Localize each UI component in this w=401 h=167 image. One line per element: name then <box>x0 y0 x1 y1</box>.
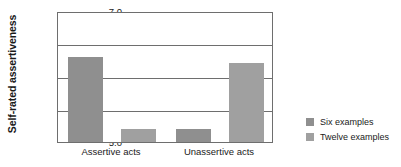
legend-swatch-icon <box>306 118 314 126</box>
legend-label: Six examples <box>320 117 374 127</box>
x-axis-category-label: Unassertive acts <box>159 146 279 157</box>
bar <box>229 63 264 142</box>
legend-item: Twelve examples <box>306 129 389 144</box>
bar <box>68 57 103 142</box>
plot-area <box>57 12 273 143</box>
bar-chart-figure: Self-rated assertiveness 5.05.56.06.57.0… <box>0 0 401 167</box>
bar <box>176 129 211 142</box>
legend-swatch-icon <box>306 133 314 141</box>
chart-legend: Six examplesTwelve examples <box>306 114 389 144</box>
y-axis-title: Self-rated assertiveness <box>6 4 18 144</box>
legend-item: Six examples <box>306 114 389 129</box>
bar <box>121 129 156 142</box>
x-axis-category-label: Assertive acts <box>51 146 171 157</box>
bar-group-container <box>58 13 272 142</box>
legend-label: Twelve examples <box>320 132 389 142</box>
